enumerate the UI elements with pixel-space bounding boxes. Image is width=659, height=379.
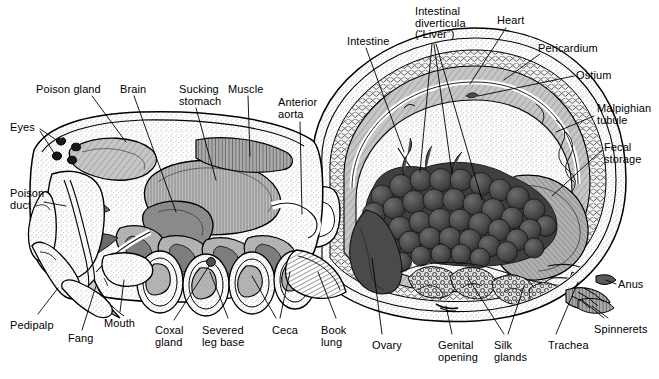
label-line: Spinnerets (594, 323, 648, 335)
label-pedipalp: Pedipalp (10, 320, 54, 332)
label-ostium: Ostium (576, 70, 611, 82)
label-line: Intestine (347, 35, 389, 47)
label-severed-leg-base: Severedleg base (202, 325, 244, 348)
label-line: Silk (494, 339, 512, 351)
label-line: Heart (497, 14, 524, 26)
label-line: Ostium (576, 69, 611, 81)
label-spinnerets: Spinnerets (594, 324, 648, 336)
label-line: diverticula (415, 17, 466, 29)
abdomen-interior (330, 50, 606, 308)
label-line: Brain (120, 83, 146, 95)
label-heart: Heart (497, 15, 524, 27)
label-line: (“Liver”) (415, 28, 454, 40)
label-line: Pericardium (538, 42, 598, 54)
label-line: Genital (438, 339, 474, 351)
label-line: Anterior (278, 96, 317, 108)
label-line: Anus (618, 278, 643, 290)
label-poison-gland: Poison gland (36, 84, 101, 96)
label-line: tubule (597, 114, 628, 126)
label-line: Poison (10, 187, 44, 199)
label-line: stomach (179, 95, 221, 107)
label-line: lung (321, 336, 342, 348)
figure-canvas: Poison gland Brain Suckingstomach Muscle… (0, 0, 659, 379)
spider-anatomy-illustration (0, 0, 659, 379)
label-line: Ovary (372, 339, 402, 351)
label-line: Trachea (548, 339, 589, 351)
label-line: Pedipalp (10, 319, 54, 331)
label-line: Poison gland (36, 83, 101, 95)
label-line: Muscle (228, 83, 263, 95)
label-anus: Anus (618, 279, 643, 291)
label-anterior-aorta: Anterioraorta (278, 97, 317, 120)
label-line: Intestinal (415, 5, 460, 17)
label-poison-duct: Poisonduct (10, 188, 44, 211)
label-malpighian-tubule: Malpighiantubule (597, 103, 651, 126)
label-line: Book (321, 324, 346, 336)
label-line: opening (438, 351, 478, 363)
label-sucking-stomach: Suckingstomach (179, 84, 221, 107)
label-line: gland (155, 336, 182, 348)
label-trachea: Trachea (548, 340, 589, 352)
label-mouth: Mouth (104, 318, 135, 330)
label-line: storage (604, 153, 641, 165)
label-ovary: Ovary (372, 340, 402, 352)
label-intestine: Intestine (347, 36, 389, 48)
label-line: Mouth (104, 317, 135, 329)
label-line: Fang (68, 332, 93, 344)
label-coxal-gland: Coxalgland (155, 325, 184, 348)
label-muscle: Muscle (228, 84, 263, 96)
label-fecal-storage: Fecalstorage (604, 142, 641, 165)
label-intestinal-diverticula: Intestinaldiverticula(“Liver”) (415, 6, 466, 41)
label-line: leg base (202, 336, 244, 348)
label-line: glands (494, 351, 527, 363)
label-eyes: Eyes (10, 122, 35, 134)
label-line: aorta (278, 108, 304, 120)
label-pericardium: Pericardium (538, 43, 598, 55)
label-line: Coxal (155, 324, 184, 336)
label-line: Eyes (10, 121, 35, 133)
label-fang: Fang (68, 333, 93, 345)
label-genital-opening: Genitalopening (438, 340, 478, 363)
label-silk-glands: Silkglands (494, 340, 527, 363)
label-line: Severed (202, 324, 244, 336)
label-brain: Brain (120, 84, 146, 96)
label-line: duct (10, 199, 31, 211)
label-book-lung: Booklung (321, 325, 346, 348)
cephalothorax-group (28, 112, 346, 318)
label-line: Malpighian (597, 102, 651, 114)
label-line: Fecal (604, 141, 631, 153)
label-ceca: Ceca (272, 325, 298, 337)
label-line: Ceca (272, 324, 298, 336)
label-line: Sucking (179, 83, 219, 95)
